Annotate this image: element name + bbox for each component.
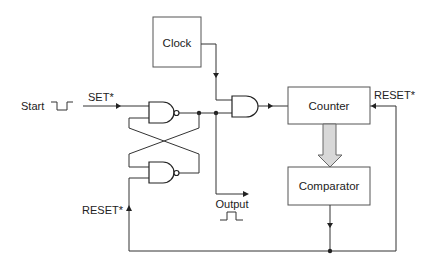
set-arrow-icon	[116, 103, 121, 109]
counter-block: Counter	[288, 87, 370, 124]
reset-label-right: RESET*	[374, 89, 416, 101]
start-label: Start	[21, 100, 44, 112]
counter-input-arrow-icon	[268, 103, 273, 109]
inverter-bubble-icon	[174, 171, 179, 176]
clock-block: Clock	[153, 17, 201, 67]
inverter-bubble-icon	[174, 111, 179, 116]
junction-dot	[328, 249, 332, 253]
start-pulse-icon	[51, 102, 73, 110]
nand-gate-bottom	[149, 162, 179, 183]
and-gate	[232, 96, 258, 117]
comparator-label: Comparator	[299, 180, 360, 192]
output-pulse-icon	[220, 212, 243, 220]
comparator-block: Comparator	[288, 167, 370, 205]
nand-gate-top	[149, 102, 179, 123]
comparator-arrow-icon	[327, 223, 333, 228]
clock-wire	[201, 44, 232, 100]
reset-arrow-left-icon	[371, 103, 376, 109]
reset-label-left: RESET*	[82, 204, 124, 216]
counter-label: Counter	[309, 100, 350, 112]
circuit-diagram: Clock Start SET* RESET* RESET* Output	[0, 0, 430, 266]
output-arrow-icon	[243, 191, 249, 197]
output-label: Output	[215, 198, 248, 210]
output-wire	[216, 113, 244, 194]
clock-arrow-icon	[213, 73, 219, 78]
bus-arrow-icon	[318, 124, 342, 167]
clock-label: Clock	[163, 37, 192, 49]
reset-arrow-up-icon	[126, 205, 132, 211]
set-label: SET*	[88, 91, 114, 103]
